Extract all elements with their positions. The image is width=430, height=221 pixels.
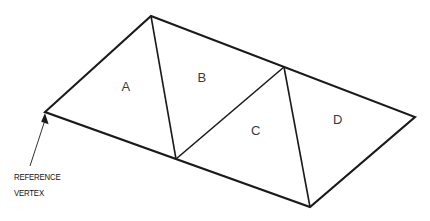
face-label-b: B (197, 70, 206, 85)
edge-bottom-mid-to-top-mid-right (176, 67, 284, 159)
reference-vertex-leader-line (30, 120, 45, 167)
face-label-d: D (333, 112, 343, 127)
diagram-canvas: A B C D REFERENCE VERTEX (0, 0, 430, 221)
face-label-a: A (121, 79, 130, 94)
quadrilateral-outline (45, 16, 415, 207)
edge-apex-to-bottom-mid (151, 16, 176, 159)
reference-vertex-arrow-icon (41, 113, 48, 124)
reference-vertex-label-line1: REFERENCE (14, 171, 61, 182)
triangulated-quadrilateral-diagram: A B C D REFERENCE VERTEX (0, 0, 430, 221)
edge-top-mid-right-to-bottom-right (284, 67, 310, 207)
reference-vertex-label-line2: VERTEX (14, 187, 44, 198)
face-label-c: C (251, 123, 261, 138)
